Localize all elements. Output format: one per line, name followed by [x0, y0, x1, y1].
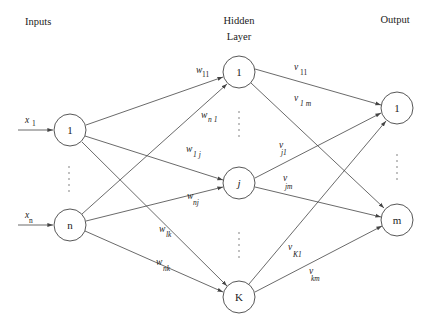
svg-text:j1: j1 [280, 148, 287, 157]
edge-in1-hidj [85, 136, 223, 180]
weight-v1m: v 1 m [294, 93, 312, 108]
hidden-node-K-label: K [235, 291, 243, 303]
svg-text:nj: nj [193, 198, 199, 207]
hidden-node-1-label: 1 [236, 66, 242, 78]
output-node-m-label: m [393, 214, 402, 226]
neural-network-diagram: Inputs Hidden Layer Output 1 n 1 j K 1 [0, 0, 433, 329]
hidden-header-line2: Layer [227, 31, 252, 42]
svg-text:w: w [201, 110, 208, 120]
svg-text:w: w [156, 257, 163, 267]
hidden-node-K: K [223, 281, 255, 313]
output-header: Output [380, 14, 409, 25]
output-node-1-label: 1 [394, 102, 400, 114]
svg-text:lk: lk [166, 230, 172, 239]
svg-text:1 m: 1 m [300, 99, 312, 108]
weight-vkm: v km [309, 266, 320, 283]
weight-v11: v 11 [294, 62, 307, 77]
hidden-node-j: j [223, 167, 255, 199]
weight-vj1: v j1 [279, 140, 287, 157]
svg-text:km: km [311, 274, 320, 283]
output-node-1: 1 [381, 92, 413, 124]
svg-text:w: w [159, 224, 166, 234]
inputs-header: Inputs [25, 16, 51, 27]
input-label-xn: x n [24, 210, 33, 225]
weight-wlk: w lk [159, 224, 172, 239]
input-node-n-label: n [67, 219, 73, 231]
input-node-n: n [54, 209, 86, 241]
svg-text:v: v [294, 62, 299, 72]
svg-text:1 j: 1 j [193, 150, 201, 159]
edge-inn-hid1 [82, 84, 227, 214]
output-node-m: m [381, 204, 413, 236]
weight-vK1: v K1 [288, 242, 302, 259]
input-label-x1: x 1 [24, 115, 36, 128]
input-node-1: 1 [54, 114, 86, 146]
svg-text:1: 1 [32, 119, 36, 128]
svg-text:11: 11 [202, 70, 209, 79]
svg-text:v: v [294, 93, 299, 103]
svg-text:jm: jm [284, 182, 293, 191]
weight-wnk: w nk [156, 257, 171, 273]
svg-text:n: n [29, 216, 33, 225]
hidden-node-1: 1 [223, 56, 255, 88]
hidden-ellipsis-upper [238, 111, 239, 136]
svg-text:n 1: n 1 [208, 115, 217, 124]
edge-in1-hidK [82, 142, 227, 286]
edge-hid1-out1 [255, 69, 381, 105]
svg-text:K1: K1 [292, 250, 302, 259]
svg-text:nk: nk [163, 264, 171, 273]
input-ellipsis [68, 166, 69, 191]
hidden-ellipsis-lower [238, 232, 239, 257]
edge-hidj-out1 [255, 113, 381, 178]
svg-text:x: x [24, 115, 30, 125]
weight-w1j: w 1 j [186, 144, 201, 159]
output-ellipsis [396, 154, 397, 179]
weight-w11: w 11 [196, 65, 209, 79]
weight-vjm: v jm [283, 173, 293, 191]
weight-wn1: w n 1 [201, 110, 217, 124]
svg-text:11: 11 [300, 68, 307, 77]
svg-text:w: w [186, 144, 193, 154]
hidden-header-line1: Hidden [224, 15, 256, 26]
input-node-1-label: 1 [67, 124, 73, 136]
